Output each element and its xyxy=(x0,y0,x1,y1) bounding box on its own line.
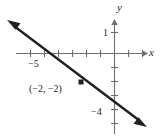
y-tick-label-negative-4: −4 xyxy=(91,107,102,117)
y-tick-label-1: 1 xyxy=(103,28,108,38)
y-axis-label: y xyxy=(117,2,122,13)
y-axis-arrow-icon xyxy=(111,19,117,25)
line-segment xyxy=(14,26,140,121)
x-axis xyxy=(16,50,148,57)
point-coordinate-label: (−2, −2) xyxy=(29,84,62,94)
y-axis xyxy=(111,19,118,134)
x-axis-label: x xyxy=(149,47,154,58)
plotted-line xyxy=(7,20,147,127)
coordinate-plane-figure: y x 1 −5 −4 (−2, −2) xyxy=(0,0,160,138)
x-tick-label-negative-5: −5 xyxy=(28,59,39,69)
point-marker xyxy=(79,80,84,85)
graph-canvas xyxy=(0,0,160,138)
